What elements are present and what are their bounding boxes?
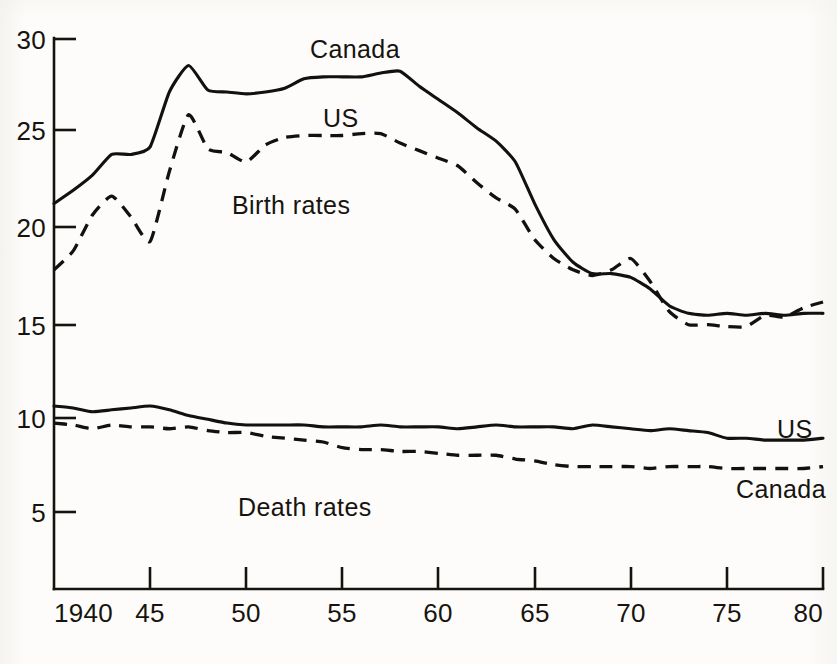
x-label-1955: 55 (327, 598, 357, 628)
annotation-canada-death: Canada (736, 475, 826, 503)
series-group (54, 65, 823, 468)
x-label-1960: 60 (423, 598, 453, 628)
us-death-rate-line (54, 406, 823, 440)
x-label-1975: 75 (712, 598, 742, 628)
line-chart-plot: 30 25 20 15 10 5 1940 45 50 55 60 65 70 … (0, 0, 837, 664)
x-label-1950: 50 (231, 598, 261, 628)
y-label-10: 10 (16, 404, 46, 434)
x-label-1980: 80 (793, 598, 823, 628)
chart-container: 30 25 20 15 10 5 1940 45 50 55 60 65 70 … (0, 0, 837, 664)
y-label-30: 30 (16, 25, 46, 55)
axis-group (54, 38, 823, 589)
x-label-1940: 1940 (54, 598, 113, 628)
us-birth-rate-line (54, 115, 823, 328)
x-label-1965: 65 (520, 598, 550, 628)
y-label-15: 15 (16, 311, 46, 341)
y-tick-labels: 30 25 20 15 10 5 (16, 25, 46, 528)
annotation-us-birth: US (323, 104, 359, 132)
annotation-canada-birth: Canada (310, 35, 400, 63)
annotation-us-death: US (777, 415, 813, 443)
canada-birth-rate-line (54, 65, 823, 315)
annotation-death-rates: Death rates (238, 493, 372, 521)
y-label-25: 25 (16, 116, 46, 146)
x-label-1945: 45 (135, 598, 165, 628)
x-label-1970: 70 (616, 598, 646, 628)
y-label-20: 20 (16, 213, 46, 243)
y-label-5: 5 (31, 498, 46, 528)
x-tick-labels: 1940 45 50 55 60 65 70 75 80 (54, 598, 823, 628)
annotation-birth-rates: Birth rates (232, 191, 350, 219)
canada-death-rate-line (54, 423, 823, 468)
annotation-group: Canada US Birth rates Death rates US Can… (232, 35, 826, 521)
